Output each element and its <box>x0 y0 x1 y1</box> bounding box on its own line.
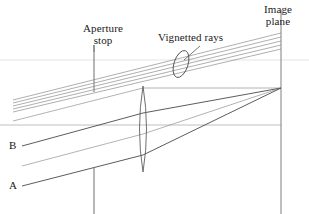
ray-a-incoming <box>22 155 143 186</box>
ray-b-incoming <box>22 113 143 146</box>
vignetted-rays-leader-line <box>184 46 200 60</box>
ray-b-outgoing <box>143 88 281 113</box>
vignetted-rays-label: Vignetted rays <box>158 31 223 43</box>
vignetted-ray-2 <box>13 37 281 103</box>
ray-b-lower-outgoing <box>143 88 281 134</box>
lens-element <box>140 86 147 172</box>
optics-figure: Aperture stop Image plane Vignetted rays… <box>0 0 309 214</box>
vignetted-ray-5 <box>13 49 281 112</box>
vignetted-ray-4 <box>13 45 281 109</box>
ray-a-outgoing <box>143 88 281 155</box>
image-plane-label: Image plane <box>250 3 306 28</box>
ray-b-label: B <box>9 139 16 151</box>
vignetted-ray-3 <box>13 41 281 106</box>
ray-b-lower-incoming <box>22 134 143 166</box>
vignetted-ray-1 <box>13 33 281 100</box>
vignette-highlight-ellipse <box>170 49 192 80</box>
aperture-stop-label: Aperture stop <box>70 22 136 47</box>
ray-diagram-canvas <box>0 0 309 214</box>
ray-a-label: A <box>9 179 17 191</box>
